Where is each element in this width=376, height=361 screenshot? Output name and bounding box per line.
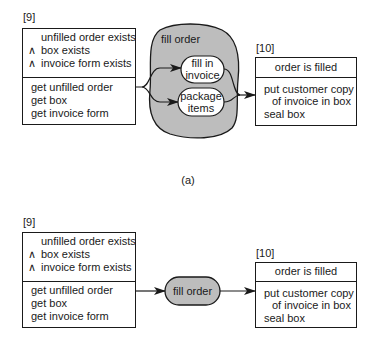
precondition: invoice form exists	[41, 261, 132, 273]
action: seal box	[264, 108, 305, 120]
subprocess-fill-in-invoice: fill in invoice	[181, 56, 224, 83]
state-box-10-bottom: [10] order is filled put customer copy o…	[256, 247, 357, 328]
svg-text:items: items	[188, 102, 215, 114]
subprocess-package-items: package items	[178, 88, 224, 116]
action: put customer copy	[264, 83, 354, 95]
precondition: unfilled order exists	[41, 235, 136, 247]
svg-text:invoice: invoice	[185, 69, 219, 81]
action: get box	[31, 297, 68, 309]
and-symbol: ∧	[28, 44, 36, 56]
action: of invoice in box	[272, 299, 351, 311]
diagram-b: [9] unfilled order exists ∧ box exists ∧…	[23, 216, 357, 328]
action: get invoice form	[31, 310, 109, 322]
state-box-10-top: [10] order is filled put customer copy o…	[256, 42, 357, 126]
action: get box	[31, 94, 68, 106]
process-blob-fill-order: fill order fill in invoice package items	[135, 24, 255, 138]
box-id-label: [10]	[256, 42, 274, 54]
precondition: unfilled order exists	[41, 31, 136, 43]
box-id-label: [10]	[256, 247, 274, 259]
action: put customer copy	[264, 287, 354, 299]
precondition: box exists	[41, 44, 90, 56]
state-box-9-top: [9] unfilled order exists ∧ box exists ∧…	[23, 11, 137, 125]
and-symbol: ∧	[28, 57, 36, 69]
and-symbol: ∧	[28, 261, 36, 273]
process-label: fill order	[161, 33, 200, 45]
svg-text:fill in: fill in	[191, 57, 213, 69]
box-id-label: [9]	[23, 216, 35, 228]
svg-text:package: package	[180, 90, 222, 102]
process-oval-fill-order: fill order	[165, 277, 220, 305]
box-id-label: [9]	[23, 11, 35, 23]
action: of invoice in box	[272, 95, 351, 107]
and-symbol: ∧	[28, 248, 36, 260]
caption-a: (a)	[181, 174, 194, 186]
process-diagram: [9] unfilled order exists ∧ box exists ∧…	[0, 0, 376, 361]
precondition: invoice form exists	[41, 57, 132, 69]
postcondition: order is filled	[275, 61, 337, 73]
action: seal box	[264, 312, 305, 324]
action: get unfilled order	[31, 284, 113, 296]
precondition: box exists	[41, 248, 90, 260]
action: get unfilled order	[31, 81, 113, 93]
process-label: fill order	[173, 285, 212, 297]
action: get invoice form	[31, 107, 109, 119]
state-box-9-bottom: [9] unfilled order exists ∧ box exists ∧…	[23, 216, 137, 328]
postcondition: order is filled	[275, 265, 337, 277]
diagram-a: [9] unfilled order exists ∧ box exists ∧…	[23, 11, 357, 138]
